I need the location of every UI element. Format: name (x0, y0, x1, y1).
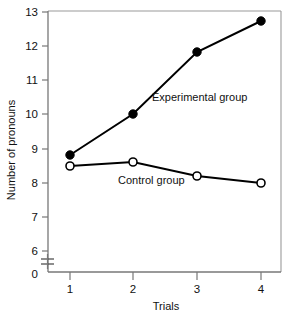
data-point-filled (257, 17, 265, 25)
y-tick-label: 12 (25, 40, 38, 52)
control-group-label: Control group (118, 174, 185, 186)
chart-container: 13 12 11 10 9 8 7 6 0 1 2 3 4 Trials Num… (0, 0, 303, 313)
chart-background (0, 0, 303, 313)
y-tick-label: 8 (32, 177, 38, 189)
y-tick-label: 11 (26, 74, 38, 86)
data-point-open (66, 162, 74, 170)
y-tick-label: 7 (32, 211, 38, 223)
data-point-filled (66, 151, 74, 159)
line-chart: 13 12 11 10 9 8 7 6 0 1 2 3 4 Trials Num… (0, 0, 303, 313)
experimental-group-label: Experimental group (152, 91, 247, 103)
x-tick-label: 1 (67, 283, 73, 295)
data-point-filled (129, 110, 137, 118)
data-point-open (129, 158, 137, 166)
x-axis-title: Trials (153, 300, 180, 312)
y-axis-title: Number of pronouns (5, 99, 17, 200)
y-tick-label: 9 (32, 143, 38, 155)
data-point-open (257, 179, 265, 187)
y-axis-zero-label: 0 (32, 268, 38, 280)
y-tick-label: 13 (25, 6, 38, 18)
y-tick-label: 10 (25, 108, 38, 120)
x-tick-label: 4 (258, 283, 265, 295)
x-tick-label: 2 (130, 283, 136, 295)
x-tick-label: 3 (194, 283, 200, 295)
data-point-filled (193, 48, 201, 56)
data-point-open (193, 172, 201, 180)
y-tick-label: 6 (32, 245, 38, 257)
